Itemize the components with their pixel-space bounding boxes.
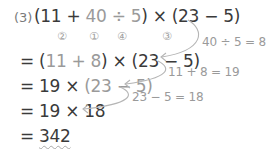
arrow-2-icon: [126, 61, 166, 84]
arrow-1-icon: [162, 20, 199, 57]
arrow-3-icon: [84, 87, 128, 109]
step-arrows: [0, 0, 267, 149]
